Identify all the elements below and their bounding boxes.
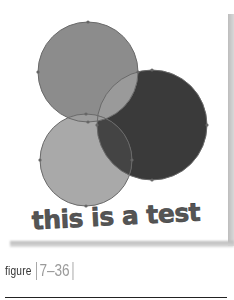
figure-caption: figure 7–36 bbox=[5, 262, 80, 280]
drop-shadow-right bbox=[228, 14, 234, 246]
caption-label: figure bbox=[5, 264, 32, 278]
figure-number: 7–36 bbox=[36, 262, 73, 280]
drop-shadow-bottom bbox=[10, 241, 234, 247]
caption-rule bbox=[5, 297, 227, 298]
figure-illustration: this is a test bbox=[0, 0, 234, 250]
art-text: this is a test bbox=[31, 198, 201, 236]
